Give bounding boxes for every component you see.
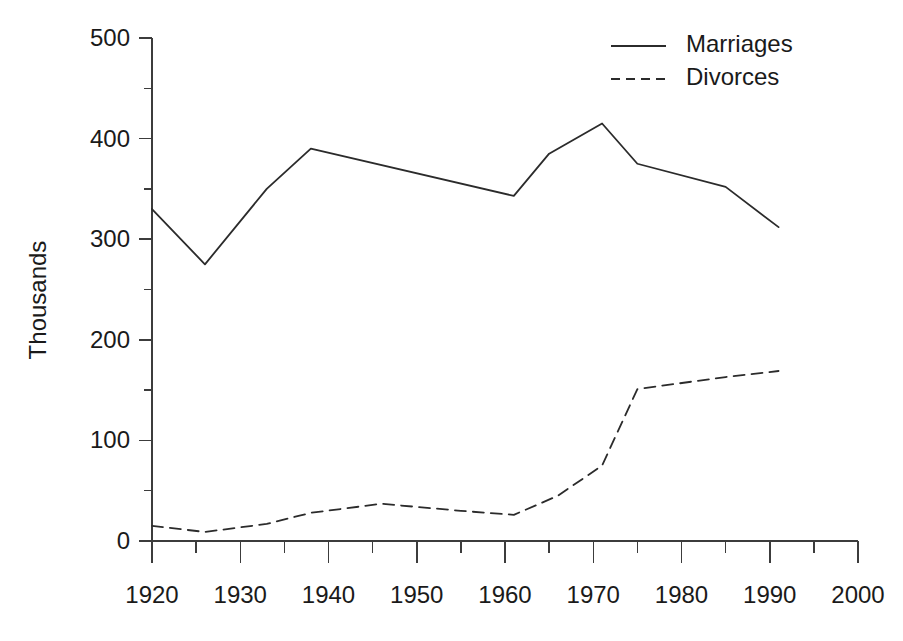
y-tick-label: 500 (90, 24, 130, 51)
y-tick-label: 100 (90, 426, 130, 453)
line-chart-figure: 0100200300400500 19201930194019501960197… (0, 0, 903, 641)
y-tick-label: 200 (90, 326, 130, 353)
x-tick-label: 2000 (831, 581, 884, 608)
chart-legend: MarriagesDivorces (611, 30, 793, 90)
x-tick-label: 1950 (390, 581, 443, 608)
x-axis-tick-labels: 192019301940195019601970198019902000 (125, 581, 884, 608)
y-axis-minor-ticks (144, 88, 152, 490)
axis-group (152, 38, 858, 541)
x-tick-label: 1930 (214, 581, 267, 608)
y-axis-title: Thousands (24, 241, 51, 360)
chart-container: 0100200300400500 19201930194019501960197… (0, 0, 903, 641)
x-tick-label: 1920 (125, 581, 178, 608)
y-tick-label: 400 (90, 125, 130, 152)
legend-label-marriages: Marriages (686, 30, 793, 57)
series-line-marriages (152, 124, 779, 265)
x-tick-label: 1990 (743, 581, 796, 608)
x-tick-label: 1960 (478, 581, 531, 608)
x-tick-label: 1980 (655, 581, 708, 608)
legend-label-divorces: Divorces (686, 63, 779, 90)
y-tick-label: 0 (117, 527, 130, 554)
y-tick-label: 300 (90, 225, 130, 252)
x-axis-major-ticks (152, 541, 858, 563)
x-tick-label: 1940 (302, 581, 355, 608)
x-tick-label: 1970 (567, 581, 620, 608)
y-axis-tick-labels: 0100200300400500 (90, 24, 130, 554)
data-series-group (152, 124, 779, 532)
series-line-divorces (152, 371, 779, 532)
